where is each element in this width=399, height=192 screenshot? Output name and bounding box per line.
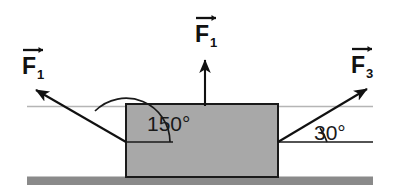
vector-overbar-arrowhead-icon <box>368 46 373 52</box>
force-label-f3-right: F 3 <box>351 46 373 81</box>
angle-label-30: 30° <box>314 121 346 144</box>
force-label-f1-up: F 1 <box>195 15 217 50</box>
vector-overbar-arrowhead-icon <box>39 47 44 53</box>
force-label-f1-up-symbol: F <box>195 21 209 47</box>
vector-overbar-arrowhead-icon <box>212 15 217 21</box>
force-diagram: F 1 F 1 F 3 150° 30° <box>0 0 399 192</box>
force-label-f1-left-symbol: F <box>22 53 36 79</box>
force-label-f3-right-symbol: F <box>351 52 365 78</box>
angle-label-150: 150° <box>147 112 190 135</box>
force-arrow-f1-left <box>36 90 126 142</box>
force-label-f1-up-subscript: 1 <box>210 35 217 50</box>
force-label-f1-left-subscript: 1 <box>37 67 44 82</box>
diagram-canvas: F 1 F 1 F 3 150° 30° <box>0 0 399 192</box>
force-label-f1-left: F 1 <box>22 47 44 82</box>
force-label-f3-right-subscript: 3 <box>366 66 373 81</box>
